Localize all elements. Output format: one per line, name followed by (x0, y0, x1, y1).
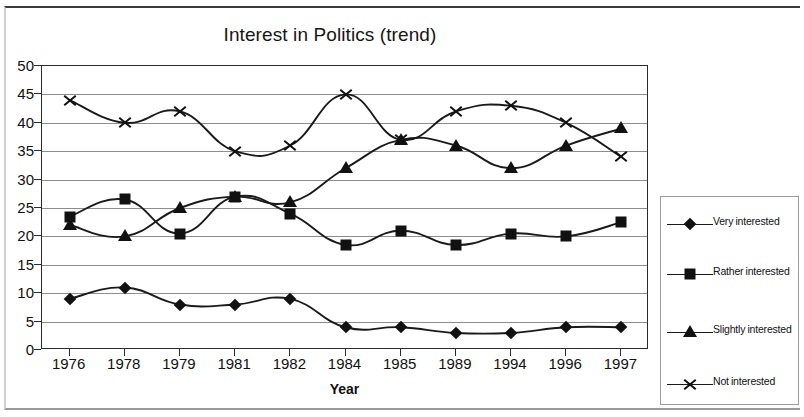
x-axis-tick-mark (69, 349, 70, 356)
data-point-x-icon (172, 104, 187, 119)
chart-legend: Very interestedRather interestedSlightly… (660, 196, 799, 405)
x-axis-tick-label: 1976 (52, 356, 85, 371)
x-axis-tick-label: 1979 (162, 356, 195, 371)
x-axis-tick-mark (510, 349, 511, 356)
series-lines (42, 66, 649, 350)
data-point-x-icon (393, 132, 408, 147)
x-axis-tick-label: 1997 (604, 356, 637, 371)
y-axis-tick-mark (34, 179, 41, 180)
x-axis-tick-label: 1984 (328, 356, 361, 371)
x-axis: 1976197819791981198219841985198919941996… (41, 356, 648, 380)
series-line (70, 128, 622, 237)
y-axis-tick-mark (34, 207, 41, 208)
x-axis-tick-mark (124, 349, 125, 356)
legend-item-x[interactable]: Not interested (667, 375, 795, 392)
y-axis: 50454035302520151050 (0, 65, 34, 349)
y-axis-tick-label: 45 (0, 86, 34, 101)
y-axis-tick-label: 0 (0, 342, 34, 357)
y-axis-tick-label: 30 (0, 171, 34, 186)
y-axis-tick-label: 35 (0, 143, 34, 158)
y-axis-tick-label: 40 (0, 114, 34, 129)
y-axis-tick-mark (34, 349, 41, 350)
x-axis-tick-mark (179, 349, 180, 356)
y-axis-tick-mark (34, 292, 41, 293)
data-point-square-icon (285, 208, 296, 219)
data-point-x-icon (448, 104, 463, 119)
y-axis-tick-label: 15 (0, 256, 34, 271)
y-axis-tick-mark (34, 150, 41, 151)
series-line (70, 196, 622, 246)
y-axis-tick-label: 20 (0, 228, 34, 243)
data-point-x-icon (338, 87, 353, 102)
x-axis-tick-label: 1981 (217, 356, 250, 371)
data-point-triangle-icon (504, 161, 518, 173)
y-axis-tick-mark (34, 321, 41, 322)
data-point-x-icon (228, 144, 243, 159)
data-point-square-icon (340, 239, 351, 250)
data-point-x-icon (559, 115, 574, 130)
data-point-square-icon (561, 231, 572, 242)
data-point-triangle-icon (339, 161, 353, 173)
x-axis-tick-label: 1989 (438, 356, 471, 371)
data-point-square-icon (174, 228, 185, 239)
x-axis-tick-mark (455, 349, 456, 356)
legend-marker-square-icon (667, 266, 713, 282)
x-axis-tick-label: 1982 (273, 356, 306, 371)
data-point-x-icon (504, 98, 519, 113)
legend-marker-x-icon (667, 376, 713, 392)
x-axis-tick-mark (620, 349, 621, 356)
data-point-square-icon (506, 228, 517, 239)
y-axis-tick-label: 25 (0, 200, 34, 215)
data-point-square-icon (616, 217, 627, 228)
data-point-square-icon (119, 194, 130, 205)
legend-item-diamond[interactable]: Very interested (667, 215, 795, 232)
chart-figure: Interest in Politics (trend) 50454035302… (0, 0, 804, 417)
x-axis-tick-mark (400, 349, 401, 356)
data-point-triangle-icon (449, 139, 463, 151)
y-axis-tick-mark (34, 65, 41, 66)
data-point-triangle-icon (559, 139, 573, 151)
x-axis-tick-label: 1978 (107, 356, 140, 371)
chart-title: Interest in Politics (trend) (0, 24, 660, 46)
data-point-x-icon (614, 149, 629, 164)
data-point-square-icon (395, 225, 406, 236)
legend-marker-diamond-icon (667, 216, 713, 232)
x-axis-tick-mark (289, 349, 290, 356)
x-axis-title: Year (41, 381, 648, 397)
legend-item-label: Not interested (713, 375, 775, 388)
legend-item-triangle[interactable]: Slightly interested (667, 323, 795, 340)
data-point-x-icon (117, 115, 132, 130)
x-axis-tick-label: 1985 (383, 356, 416, 371)
x-axis-tick-mark (234, 349, 235, 356)
x-axis-tick-label: 1996 (549, 356, 582, 371)
data-point-triangle-icon (283, 195, 297, 207)
data-point-triangle-icon (228, 190, 242, 202)
y-axis-tick-label: 5 (0, 313, 34, 328)
data-point-triangle-icon (173, 201, 187, 213)
y-axis-tick-mark (34, 122, 41, 123)
x-axis-tick-label: 1994 (493, 356, 526, 371)
data-point-square-icon (450, 239, 461, 250)
series-line (70, 94, 622, 157)
x-axis-tick-mark (565, 349, 566, 356)
data-point-x-icon (62, 93, 77, 108)
legend-item-label: Slightly interested (713, 323, 792, 336)
y-axis-tick-mark (34, 93, 41, 94)
legend-item-label: Very interested (713, 215, 780, 228)
y-axis-tick-label: 10 (0, 285, 34, 300)
legend-item-label: Rather interested (713, 265, 790, 278)
data-point-triangle-icon (63, 218, 77, 230)
y-axis-tick-mark (34, 235, 41, 236)
plot-area (41, 65, 648, 349)
data-point-x-icon (283, 138, 298, 153)
y-axis-tick-mark (34, 264, 41, 265)
x-axis-tick-mark (345, 349, 346, 356)
legend-item-square[interactable]: Rather interested (667, 265, 795, 282)
legend-marker-triangle-icon (667, 324, 713, 340)
data-point-triangle-icon (614, 122, 628, 134)
data-point-triangle-icon (118, 229, 132, 241)
y-axis-tick-label: 50 (0, 58, 34, 73)
